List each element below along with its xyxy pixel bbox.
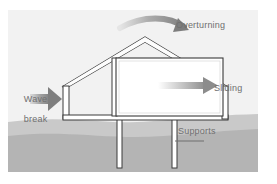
support-post-right	[172, 118, 177, 168]
label-overturning: Overturning	[176, 20, 225, 30]
support-post-left	[117, 118, 122, 168]
label-wave-break: Wave break	[13, 84, 47, 134]
left-exterior-wall	[63, 86, 69, 119]
label-supports: Supports	[178, 126, 216, 136]
label-sliding: Sliding	[214, 83, 242, 93]
label-wave-break-line1: Wave	[24, 94, 47, 104]
label-wave-break-line2: break	[24, 114, 48, 124]
diagram-figure: Overturning Sliding Supports Wave break	[0, 0, 277, 184]
